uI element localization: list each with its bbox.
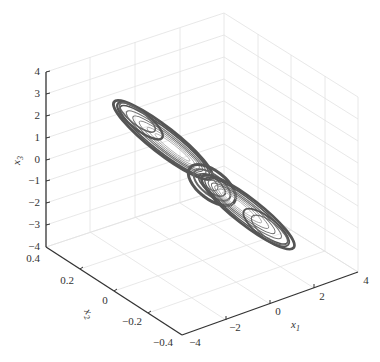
svg-text:4: 4 bbox=[363, 274, 369, 286]
svg-text:1: 1 bbox=[35, 131, 41, 143]
x3-tick-labels: 4 3 2 1 0 −1 −2 −3 −4 bbox=[28, 65, 40, 252]
svg-text:3: 3 bbox=[35, 87, 41, 99]
svg-text:−3: −3 bbox=[28, 218, 40, 230]
x3-axis-label: x3 bbox=[10, 156, 25, 166]
svg-text:−2: −2 bbox=[28, 196, 40, 208]
svg-text:0: 0 bbox=[102, 294, 108, 306]
svg-text:x1: x1 bbox=[290, 318, 300, 333]
svg-text:4: 4 bbox=[35, 65, 41, 77]
x2-axis-label: x2 bbox=[79, 305, 97, 321]
x2-tick-labels: 0.4 0.2 0 −0.2 −0.4 bbox=[26, 252, 173, 348]
svg-text:0.4: 0.4 bbox=[26, 252, 40, 264]
x1-tick-labels: −4 −2 0 2 4 bbox=[189, 274, 369, 348]
svg-text:0: 0 bbox=[275, 305, 281, 317]
attractor-3d-plot: 4 3 2 1 0 −1 −2 −3 −4 x3 0.4 0.2 0 −0.2 … bbox=[0, 0, 380, 362]
svg-text:−1: −1 bbox=[28, 174, 40, 186]
svg-text:−4: −4 bbox=[28, 240, 40, 252]
x1-axis-label: x1 bbox=[290, 318, 300, 333]
svg-text:0: 0 bbox=[35, 153, 41, 165]
svg-text:x3: x3 bbox=[10, 156, 25, 166]
svg-text:0.2: 0.2 bbox=[60, 274, 74, 286]
svg-text:−2: −2 bbox=[229, 321, 241, 333]
svg-text:2: 2 bbox=[35, 109, 41, 121]
svg-text:x2: x2 bbox=[79, 305, 97, 321]
svg-text:−4: −4 bbox=[189, 336, 201, 348]
svg-text:2: 2 bbox=[319, 290, 325, 302]
svg-text:−0.2: −0.2 bbox=[122, 315, 142, 327]
svg-text:−0.4: −0.4 bbox=[153, 336, 173, 348]
